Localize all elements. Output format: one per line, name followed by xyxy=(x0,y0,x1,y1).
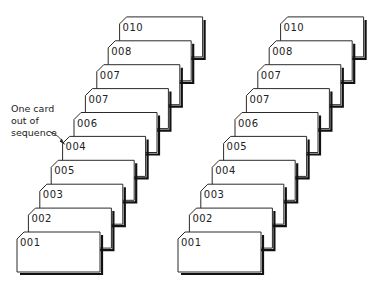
card-number: 010 xyxy=(123,22,144,33)
card-sequence-diagram: 010008007007006004005003002001One cardou… xyxy=(0,0,379,288)
card-number: 007 xyxy=(88,94,109,105)
card-number: 004 xyxy=(215,165,236,176)
card-number: 008 xyxy=(111,46,132,57)
card-number: 004 xyxy=(66,141,87,152)
card-stack-left: 010008007007006004005003002001 xyxy=(17,17,205,274)
card-number: 003 xyxy=(43,189,64,200)
card-number: 008 xyxy=(272,46,293,57)
card-stack-right: 010008007007006005004003002001 xyxy=(178,17,366,274)
card-number: 001 xyxy=(181,237,202,248)
card-number: 006 xyxy=(238,118,259,129)
card-number: 007 xyxy=(261,70,282,81)
card-number: 001 xyxy=(20,237,41,248)
punch-card: 001 xyxy=(178,232,263,274)
card-number: 010 xyxy=(284,22,305,33)
punch-card: 001 xyxy=(17,232,102,274)
annotation-text: sequence xyxy=(11,127,57,138)
card-number: 005 xyxy=(54,165,75,176)
annotation-text: One card xyxy=(11,103,54,114)
card-number: 007 xyxy=(249,94,270,105)
card-number: 006 xyxy=(77,118,98,129)
card-number: 007 xyxy=(100,70,121,81)
card-number: 002 xyxy=(31,213,52,224)
card-number: 003 xyxy=(204,189,225,200)
card-number: 002 xyxy=(192,213,213,224)
card-number: 005 xyxy=(227,141,248,152)
annotation-text: out of xyxy=(11,115,39,126)
out-of-sequence-annotation: One cardout ofsequence xyxy=(11,103,65,144)
